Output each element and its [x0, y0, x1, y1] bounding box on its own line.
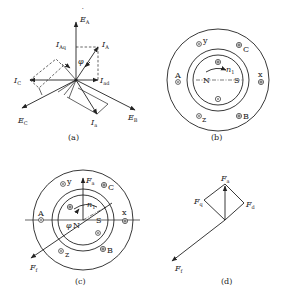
label-B-b: B: [243, 112, 249, 121]
label-S-c: S: [96, 216, 101, 225]
construction-IC: [30, 59, 63, 88]
stator-conductor-C: [236, 42, 241, 47]
spoke: [64, 80, 76, 95]
caption-d: (d): [221, 277, 232, 286]
tick: [39, 88, 42, 95]
label-x-c: x: [122, 208, 127, 217]
label-Fa-d: Fa: [220, 174, 230, 184]
label-EB: EB: [127, 113, 138, 123]
label-Fd-d: Fd: [245, 200, 256, 210]
label-B-c: B: [107, 246, 113, 255]
label-EC: EC: [17, 116, 28, 126]
label-Fa-c: Fa: [85, 176, 95, 186]
phasor-small-1: [65, 64, 70, 68]
caption-b: (b): [211, 133, 222, 142]
label-C-c: C: [108, 183, 114, 192]
rotation-arrow: [76, 209, 79, 213]
stator-conductor-y: [197, 42, 202, 47]
stator-conductor-B: [236, 113, 241, 118]
label-N-c: N: [73, 221, 80, 230]
construction-Ia: [67, 88, 108, 114]
caption-c: (c): [75, 277, 86, 286]
stator-conductor-B: [100, 246, 105, 251]
rotor-conductor-cross: [67, 204, 72, 209]
mmf-Ff: [172, 220, 225, 261]
caption-a: (a): [68, 133, 79, 142]
label-EA: EA: [79, 15, 90, 25]
label-n1-b: n1: [226, 65, 234, 75]
dot-EA: ˙: [80, 7, 84, 16]
label-n1-c: n1: [87, 200, 95, 210]
panel-b-machine-cross-section: y C A x N S n1 z B (b): [167, 29, 269, 142]
label-IA: IA: [101, 40, 109, 50]
label-C-b: C: [243, 45, 249, 54]
label-Ff-c: Ff: [29, 263, 39, 273]
stator-conductor-A: [176, 80, 181, 85]
panel-d-mmf-diagram: Fa Fq Fd Ff (d): [172, 174, 256, 286]
origin-point: [74, 78, 77, 81]
label-IC: IC: [13, 76, 21, 86]
label-Fq-d: Fq: [193, 197, 204, 208]
label-phi-a: φ: [78, 57, 84, 66]
figure-canvas: EA ˙ IAq IA φ IC Iad EC Ia EB (a): [0, 0, 281, 301]
stator-conductor-z: [197, 114, 202, 119]
rotation-arrow: [206, 68, 226, 72]
label-Ff-d: Ff: [174, 264, 184, 274]
label-S-b: S: [234, 76, 239, 85]
stator-conductor-x: [122, 218, 127, 223]
stator-conductor-A: [39, 218, 44, 223]
label-IAq: IAq: [55, 40, 67, 51]
stator-conductor-x: [258, 79, 263, 84]
label-N-b: N: [203, 76, 210, 85]
label-y-c: y: [66, 177, 72, 186]
stator-conductor-z: [59, 249, 64, 254]
label-A-c: A: [37, 209, 44, 218]
rotor-conductor-dot: [96, 231, 101, 236]
stator-conductor-y: [61, 182, 66, 187]
label-y-b: y: [202, 36, 208, 45]
phasor-EC: [22, 80, 76, 108]
panel-c-machine-cross-section: Fa y C A x n1 S φ N z B Ff (c): [25, 170, 140, 286]
spoke: [62, 64, 76, 80]
label-x-b: x: [258, 70, 263, 79]
label-z-b: z: [202, 115, 206, 124]
stator-conductor-C: [101, 182, 106, 187]
label-z-c: z: [65, 250, 69, 259]
label-phi-c: φ: [66, 221, 72, 230]
label-Iad: Iad: [99, 76, 110, 86]
mmf-parallelogram: [204, 184, 244, 220]
label-Ia: Ia: [90, 118, 97, 128]
label-A-b: A: [174, 71, 181, 80]
panel-a-phasor-diagram: EA ˙ IAq IA φ IC Iad EC Ia EB (a): [13, 7, 138, 142]
